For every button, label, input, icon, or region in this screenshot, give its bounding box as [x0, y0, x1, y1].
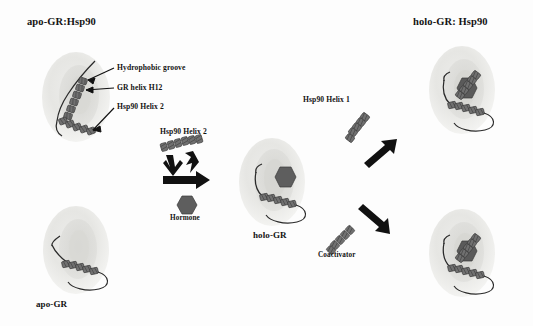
arrow-to-coactivator-complex: [358, 204, 390, 234]
bound-hormone: [275, 167, 296, 187]
annotation-hsp90-helix-2: Hsp90 Helix 2: [117, 103, 164, 111]
label-free-hsp90-helix-1: Hsp90 Helix 1: [303, 96, 350, 104]
structure-holo-gr-hsp90: [429, 46, 495, 134]
title-apo-gr-hsp90: apo-GR:Hsp90: [27, 17, 96, 28]
annotation-gr-helix-h12: GR helix H12: [117, 84, 163, 92]
label-free-hsp90-helix-2: Hsp90 Helix 2: [160, 128, 207, 136]
figure-canvas: apo-GR:Hsp90 holo-GR: Hsp90 apo-GR holo-…: [0, 0, 533, 326]
structure-holo-gr: [239, 138, 306, 226]
free-hsp90-helix-1: [345, 112, 370, 143]
title-holo-gr: holo-GR: [253, 231, 287, 240]
arrow-hsp90-helix2-down: [163, 151, 199, 176]
structure-holo-gr-coactivator: [429, 209, 495, 297]
label-hormone: Hormone: [170, 215, 200, 222]
arrow-to-holo-gr-hsp90: [364, 139, 397, 168]
free-hsp90-helix-2: [160, 134, 203, 151]
title-apo-gr: apo-GR: [36, 300, 67, 309]
label-coactivator: Coactivator: [318, 252, 355, 259]
annotation-hydrophobic-groove: Hydrophobic groove: [117, 64, 185, 72]
diagram-svg: [0, 0, 533, 326]
title-holo-gr-hsp90: holo-GR: Hsp90: [413, 17, 488, 28]
hormone-hexagon: [177, 196, 197, 214]
arrow-hormone-binding: [163, 171, 210, 189]
structure-apo-gr: [43, 206, 109, 294]
